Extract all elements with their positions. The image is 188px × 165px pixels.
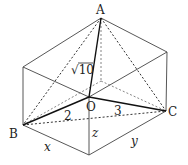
box-edge-top-right [101,18,167,52]
edge-AC [101,18,166,111]
edge-OA [89,18,101,97]
label-O: O [86,100,96,114]
label-B: B [9,127,18,141]
edge-OC [89,97,166,111]
box-edge-bottom-left [23,125,89,155]
label-y: y [130,134,138,148]
label-OA-length: √10 [71,63,94,77]
label-OB-length: 2 [64,109,72,123]
label-A: A [95,3,105,17]
label-OC-length: 3 [114,104,122,118]
label-z: z [91,126,99,140]
hidden-edge-right [101,81,166,111]
label-x: x [44,140,51,154]
label-C: C [168,105,177,119]
box-edge-top-left [23,18,101,67]
box-edge-right-vertical [166,52,167,111]
edge-OB [23,97,89,125]
box-tetrahedron-diagram: A B C O √10 2 3 x y z [0,0,188,165]
